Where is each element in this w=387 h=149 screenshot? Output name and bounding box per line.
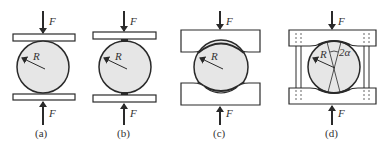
compression-test-diagram: F R F (a) F R F (b) F R F (c) <box>0 0 387 149</box>
radius-label: R <box>319 48 327 60</box>
panel-caption: (a) <box>35 127 48 140</box>
panel-caption: (b) <box>117 127 130 140</box>
specimen-disc <box>99 41 151 93</box>
panel-caption: (c) <box>213 127 226 140</box>
force-label-top: F <box>129 15 137 27</box>
force-label-top: F <box>337 15 345 27</box>
force-label-top: F <box>48 15 56 27</box>
panel-a: F R F (a) <box>13 11 75 140</box>
panel-b: F R F (b) <box>93 11 156 140</box>
radius-label: R <box>210 50 218 62</box>
radius-label: R <box>32 50 40 62</box>
bottom-plate <box>13 94 75 100</box>
force-label-bottom: F <box>48 107 56 119</box>
angle-label: 2α <box>339 46 351 58</box>
bottom-plate <box>93 95 156 102</box>
panel-c: F R F (c) <box>181 11 260 140</box>
force-label-bottom: F <box>337 107 345 119</box>
force-label-bottom: F <box>129 107 137 119</box>
top-plate <box>13 34 75 41</box>
radius-label: R <box>114 50 122 62</box>
top-contact-flat <box>121 39 128 42</box>
specimen-disc <box>17 41 69 93</box>
top-plate <box>93 32 156 39</box>
force-label-top: F <box>225 15 233 27</box>
force-label-bottom: F <box>225 107 233 119</box>
panel-caption: (d) <box>325 127 338 140</box>
panel-d: F 2α <box>289 11 376 140</box>
